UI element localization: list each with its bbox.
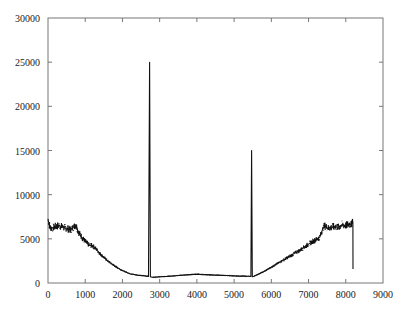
y-tick-label: 10000: [15, 190, 40, 201]
x-tick-label: 6000: [261, 289, 281, 300]
x-tick-label: 5000: [224, 289, 244, 300]
x-tick-label: 8000: [336, 289, 356, 300]
y-tick-label: 25000: [15, 57, 40, 68]
plot-frame: [48, 18, 383, 283]
x-tick-label: 4000: [187, 289, 207, 300]
series-jitter: [48, 219, 352, 278]
x-tick-label: 9000: [373, 289, 393, 300]
x-tick-label: 3000: [150, 289, 170, 300]
x-tick-label: 1000: [75, 289, 95, 300]
x-tick-label: 2000: [112, 289, 132, 300]
y-tick-label: 20000: [15, 101, 40, 112]
x-axis: 0100020003000400050006000700080009000: [46, 18, 394, 300]
line-chart: 0100020003000400050006000700080009000 05…: [0, 0, 408, 314]
y-tick-label: 0: [35, 278, 40, 289]
y-tick-label: 30000: [15, 13, 40, 24]
y-axis: 050001000015000200002500030000: [15, 13, 383, 289]
y-tick-label: 5000: [20, 234, 40, 245]
y-tick-label: 15000: [15, 146, 40, 157]
x-tick-label: 7000: [299, 289, 319, 300]
series-noise: [48, 219, 352, 278]
x-tick-label: 0: [46, 289, 51, 300]
